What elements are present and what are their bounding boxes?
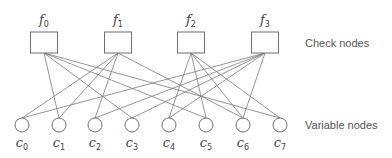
- variable-node-c0: c0: [15, 118, 29, 152]
- variable-node-label: c7: [274, 135, 286, 152]
- edge-f1-c2: [95, 53, 118, 118]
- variable-node-c1: c1: [52, 118, 66, 152]
- edge-f1-c0: [22, 53, 118, 118]
- check-node-f3: f3: [252, 12, 279, 53]
- edges-group: [22, 53, 280, 118]
- variable-node-c6: c6: [236, 118, 250, 152]
- edge-f3-c6: [243, 53, 265, 118]
- check-node-label: f2: [185, 12, 196, 29]
- check-node-f0: f0: [31, 12, 58, 53]
- variable-nodes-group: c0c1c2c3c4c5c6c7: [15, 118, 287, 152]
- check-nodes-group: f0f1f2f3: [31, 12, 279, 53]
- variable-node-label: c4: [163, 135, 175, 152]
- check-node-box: [252, 32, 279, 53]
- variable-node-c5: c5: [199, 118, 213, 152]
- check-node-label: f3: [259, 12, 270, 29]
- check-node-box: [178, 32, 205, 53]
- check-node-f1: f1: [105, 12, 132, 53]
- check-nodes-label: Check nodes: [305, 37, 370, 49]
- variable-node-circle: [162, 118, 176, 132]
- variable-node-label: c6: [237, 135, 249, 152]
- variable-node-circle: [199, 118, 213, 132]
- variable-node-label: c5: [200, 135, 212, 152]
- variable-node-circle: [52, 118, 66, 132]
- variable-node-circle: [236, 118, 250, 132]
- variable-node-label: c1: [53, 135, 65, 152]
- variable-node-circle: [88, 118, 102, 132]
- variable-node-c7: c7: [273, 118, 287, 152]
- variable-node-circle: [15, 118, 29, 132]
- check-node-box: [31, 32, 58, 53]
- check-node-label: f0: [38, 12, 49, 29]
- edge-f3-c0: [22, 53, 265, 118]
- variable-node-circle: [125, 118, 139, 132]
- variable-node-label: c2: [89, 135, 101, 152]
- variable-node-c4: c4: [162, 118, 176, 152]
- edge-f3-c2: [95, 53, 265, 118]
- edge-f3-c4: [169, 53, 265, 118]
- check-node-label: f1: [112, 12, 123, 29]
- variable-node-label: c3: [126, 135, 138, 152]
- variable-node-circle: [273, 118, 287, 132]
- variable-nodes-label: Variable nodes: [305, 119, 378, 131]
- tanner-graph: f0f1f2f3 c0c1c2c3c4c5c6c7 Check nodes Va…: [0, 0, 392, 158]
- variable-node-c3: c3: [125, 118, 139, 152]
- variable-node-label: c0: [16, 135, 28, 152]
- check-node-f2: f2: [178, 12, 205, 53]
- variable-node-c2: c2: [88, 118, 102, 152]
- check-node-box: [105, 32, 132, 53]
